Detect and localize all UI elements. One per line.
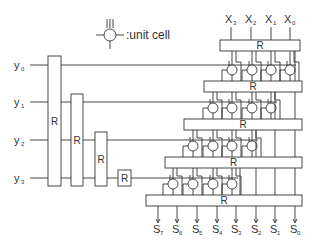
unit-cell [261, 92, 280, 119]
left-register-0: R [48, 56, 61, 186]
systolic-multiplier-diagram: :unit cell RRRR y0y1y2y3 X3X2X1X0 RRRRR … [0, 0, 319, 251]
s-outputs: S7S6S5S4S3S2S1S0 [153, 206, 301, 236]
x-subscript: 3 [233, 20, 237, 26]
unit-cell [280, 51, 299, 81]
row-register-4: R [146, 195, 302, 206]
s-subscript: 7 [160, 230, 164, 236]
register-label: R [51, 116, 58, 127]
unit-cell-icon [96, 19, 124, 49]
unit-cell [222, 51, 241, 81]
unit-cell [242, 92, 261, 119]
x-input-0: X0 [284, 13, 296, 40]
s-output-2: S2 [251, 206, 262, 236]
s-output-5: S5 [192, 206, 203, 236]
register-label: R [97, 154, 104, 165]
y-subscript: 0 [21, 66, 25, 72]
row-register-0: R [220, 40, 300, 51]
row-register-3: R [165, 157, 302, 168]
y-label: y [14, 134, 20, 146]
unit-cell [203, 130, 222, 157]
s-output-4: S4 [212, 206, 223, 236]
legend-label: :unit cell [126, 28, 170, 42]
register-label: R [230, 157, 237, 168]
s-output-1: S1 [270, 206, 281, 236]
unit-cell [203, 92, 222, 119]
unit-cell [242, 51, 261, 81]
register-label: R [121, 173, 128, 184]
register-label: R [220, 195, 227, 206]
left-register-column: RRRR [48, 56, 131, 186]
x-subscript: 0 [292, 20, 296, 26]
x-input-2: X2 [245, 13, 257, 40]
x-label: X [245, 13, 253, 25]
legend: :unit cell [96, 19, 170, 49]
s-output-3: S3 [231, 206, 242, 236]
x-label: X [284, 13, 292, 25]
x-inputs: X3X2X1X0 [225, 13, 296, 40]
y-label: y [14, 59, 20, 71]
x-label: X [225, 13, 233, 25]
unit-cell [222, 168, 241, 195]
y-label: y [14, 96, 20, 108]
x-input-3: X3 [225, 13, 237, 40]
row-register-2: R [184, 119, 302, 130]
x-subscript: 2 [253, 20, 257, 26]
x-input-1: X1 [265, 13, 277, 40]
s-subscript: 0 [297, 230, 301, 236]
s-output-6: S6 [172, 206, 183, 236]
unit-cell [242, 130, 261, 157]
unit-cell [222, 92, 241, 119]
unit-cell [183, 130, 202, 157]
s-output-0: S0 [290, 206, 301, 236]
register-label: R [256, 40, 263, 51]
s-subscript: 3 [238, 230, 242, 236]
s-subscript: 6 [179, 230, 183, 236]
s-subscript: 4 [219, 230, 223, 236]
s-subscript: 5 [199, 230, 203, 236]
unit-cell [222, 130, 241, 157]
unit-cell [203, 168, 222, 195]
left-register-3: R [118, 170, 131, 186]
s-subscript: 1 [277, 230, 281, 236]
register-label: R [239, 119, 246, 130]
left-register-2: R [95, 132, 107, 186]
row-register-1: R [204, 81, 302, 92]
y-subscript: 1 [21, 103, 25, 109]
unit-cell [261, 51, 280, 81]
x-label: X [265, 13, 273, 25]
y-subscript: 3 [21, 179, 25, 185]
y-label: y [14, 172, 20, 184]
left-register-1: R [71, 94, 83, 186]
x-subscript: 1 [273, 20, 277, 26]
s-output-7: S7 [153, 206, 164, 236]
unit-cell [163, 168, 182, 195]
y-subscript: 2 [21, 141, 25, 147]
register-label: R [249, 81, 256, 92]
register-label: R [73, 135, 80, 146]
s-subscript: 2 [258, 230, 262, 236]
unit-cell [183, 168, 202, 195]
